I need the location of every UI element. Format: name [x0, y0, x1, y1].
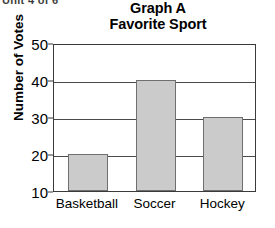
chart-title: Graph A: [58, 1, 258, 17]
y-tick-label: 30: [4, 110, 48, 127]
y-tick-label: 20: [4, 147, 48, 164]
bar-soccer: [136, 80, 176, 191]
x-tick-label: Soccer: [133, 196, 175, 211]
bar-basketball: [68, 154, 108, 191]
bar-hockey: [203, 117, 243, 191]
x-tick-label: Hockey: [200, 196, 245, 211]
x-axis-labels: BasketballSoccerHockey: [53, 196, 256, 218]
x-tick-label: Basketball: [56, 196, 118, 211]
bar-series: [54, 45, 255, 191]
y-tick-label: 50: [4, 36, 48, 53]
plot-area: [53, 44, 256, 192]
y-tick-label: 40: [4, 73, 48, 90]
chart-subtitle: Favorite Sport: [58, 17, 258, 33]
y-tick-label: 10: [4, 184, 48, 201]
chart-title-block: Graph A Favorite Sport: [58, 1, 258, 32]
y-axis-ticks: 1020304050: [0, 44, 48, 192]
